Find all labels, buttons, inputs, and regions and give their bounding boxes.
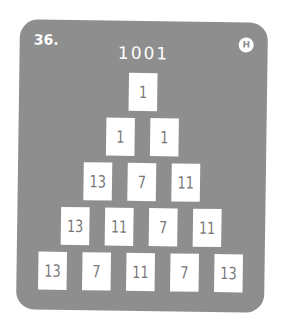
pyramid-cell[interactable]: 1 <box>129 73 158 111</box>
pyramid-cell[interactable]: 13 <box>38 252 67 290</box>
pyramid-row-4: 13 11 7 11 <box>17 206 266 247</box>
pyramid-cell[interactable]: 11 <box>105 207 134 245</box>
target-product: 1001 <box>19 41 267 64</box>
pyramid-cell[interactable]: 11 <box>171 163 200 201</box>
pyramid-cell[interactable]: 13 <box>83 162 112 200</box>
pyramid-cell[interactable]: 1 <box>150 118 179 156</box>
pyramid-cell[interactable]: 13 <box>214 254 243 292</box>
pyramid-cell[interactable]: 11 <box>126 253 155 291</box>
pyramid-row-2: 1 1 <box>18 116 267 157</box>
pyramid-cell[interactable]: 13 <box>61 207 90 245</box>
pyramid-row-1: 1 <box>19 71 268 112</box>
pyramid-row-3: 13 7 11 <box>18 161 267 202</box>
pyramid-cell[interactable]: 7 <box>149 208 178 246</box>
pyramid-cell[interactable]: 1 <box>106 117 135 155</box>
pyramid-cell[interactable]: 7 <box>82 252 111 290</box>
puzzle-card: 36. H 1001 1 1 1 13 7 11 13 11 7 11 13 7… <box>16 19 268 312</box>
pyramid-row-5: 13 7 11 7 13 <box>16 251 265 292</box>
pyramid-cell[interactable]: 7 <box>127 163 156 201</box>
pyramid-cell[interactable]: 11 <box>193 209 222 247</box>
pyramid-cell[interactable]: 7 <box>170 253 199 291</box>
